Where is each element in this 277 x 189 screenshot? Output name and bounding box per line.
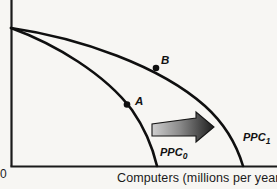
ppc1-label-main: PPC	[243, 131, 266, 143]
point-b-marker	[153, 65, 160, 72]
origin-label: 0	[0, 168, 7, 180]
ppc0-label-main: PPC	[160, 146, 183, 158]
x-axis-label: Computers (millions per year)	[117, 172, 277, 185]
point-a-marker	[124, 101, 131, 108]
ppc1-label: PPC1	[243, 132, 270, 146]
ppc0-label-subscript: 0	[183, 151, 188, 161]
point-a-label: A	[135, 96, 143, 108]
point-b-label: B	[161, 55, 169, 67]
ppc1-label-subscript: 1	[266, 136, 271, 146]
ppc-figure: 0 Computers (millions per year) A B PPC0…	[0, 0, 277, 189]
ppc0-label: PPC0	[160, 147, 187, 161]
ppc1-curve	[11, 28, 243, 166]
shift-arrow	[152, 112, 214, 142]
